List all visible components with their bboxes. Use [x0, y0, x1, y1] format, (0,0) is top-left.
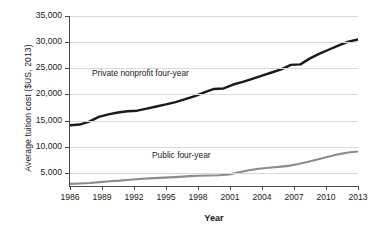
y-axis-tick [65, 68, 69, 69]
x-axis-tick [326, 186, 327, 190]
gridline [70, 173, 358, 174]
y-axis-tick [65, 121, 69, 122]
line-private-nonprofit-four-year [70, 40, 358, 126]
series-label-private-nonprofit: Private nonprofit four-year [92, 68, 189, 78]
y-axis-tick-label: 25,000 [10, 63, 62, 72]
x-axis-tick [262, 186, 263, 190]
y-axis-tick [65, 147, 69, 148]
x-axis-tick [294, 186, 295, 190]
y-axis-tick [65, 42, 69, 43]
x-axis-tick [230, 186, 231, 190]
series-label-public: Public four-year [152, 150, 211, 160]
y-axis-tick [65, 94, 69, 95]
x-axis-tick [70, 186, 71, 190]
gridline [70, 121, 358, 122]
x-axis-tick [134, 186, 135, 190]
y-axis-tick [65, 173, 69, 174]
plot-area [70, 16, 358, 186]
figure-caption [14, 236, 354, 245]
x-axis-tick [166, 186, 167, 190]
x-axis-tick [198, 186, 199, 190]
gridline [70, 147, 358, 148]
y-axis-tick-label: 30,000 [10, 37, 62, 46]
y-axis-tick-label: 15,000 [10, 116, 62, 125]
y-axis-tick-label: 20,000 [10, 89, 62, 98]
gridline [70, 94, 358, 95]
x-axis-tick [358, 186, 359, 190]
y-axis-tick-label: 35,000 [10, 11, 62, 20]
gridline [70, 42, 358, 43]
line-public-four-year [70, 151, 358, 183]
x-axis-line [69, 186, 359, 187]
y-axis-tick-label: 5,000 [10, 168, 62, 177]
y-axis-tick-label: 10,000 [10, 142, 62, 151]
x-axis-title: Year [70, 213, 358, 223]
gridline [70, 16, 358, 17]
y-axis-tick [65, 16, 69, 17]
x-axis-tick-label: 2013 [338, 193, 370, 202]
x-axis-tick [102, 186, 103, 190]
chart-figure: Average tuition cost ($US, 2013) Year 5,… [0, 0, 370, 246]
